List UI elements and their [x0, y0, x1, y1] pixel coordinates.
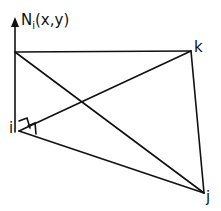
arrow-up-icon [11, 17, 19, 27]
edge-i-j [19, 131, 204, 193]
shape-function-diagram: Ni(x,y) k i j [0, 0, 221, 211]
vertex-label-k: k [194, 40, 203, 55]
right-angle-mark-2 [28, 123, 36, 134]
diagram-lines [0, 0, 221, 211]
top-edge [15, 51, 191, 52]
axis-label: Ni(x,y) [21, 13, 69, 31]
diag-apex-j [15, 52, 204, 193]
vertex-label-i: i [9, 121, 13, 136]
edge-k-j [191, 51, 204, 193]
vertex-label-j: j [206, 190, 210, 205]
